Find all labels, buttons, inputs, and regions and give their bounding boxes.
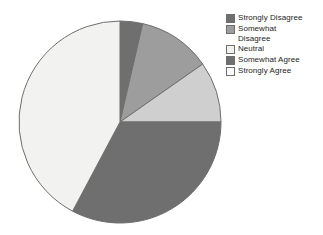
legend-item[interactable]: Somewhat Agree <box>226 55 322 65</box>
legend-item-label: Strongly Disagree <box>238 13 302 23</box>
legend-swatch-icon <box>226 25 235 34</box>
legend-item-label: Somewhat Agree <box>238 55 300 65</box>
legend-item[interactable]: Neutral <box>226 44 322 54</box>
legend-swatch-icon <box>226 67 235 76</box>
chart-legend: Strongly DisagreeSomewhat DisagreeNeutra… <box>226 13 322 76</box>
legend-item[interactable]: Strongly Agree <box>226 66 322 76</box>
pie-chart-figure: Strongly DisagreeSomewhat DisagreeNeutra… <box>0 0 323 235</box>
legend-swatch-icon <box>226 56 235 65</box>
legend-item-label: Somewhat Disagree <box>238 24 276 43</box>
pie-svg <box>0 0 232 235</box>
legend-item[interactable]: Somewhat Disagree <box>226 24 322 43</box>
pie-slice-group <box>19 21 221 223</box>
legend-swatch-icon <box>226 14 235 23</box>
legend-item-label: Strongly Agree <box>238 66 291 76</box>
legend-item[interactable]: Strongly Disagree <box>226 13 322 23</box>
legend-swatch-icon <box>226 45 235 54</box>
pie-plot-area <box>0 0 232 235</box>
legend-item-label: Neutral <box>238 44 264 54</box>
